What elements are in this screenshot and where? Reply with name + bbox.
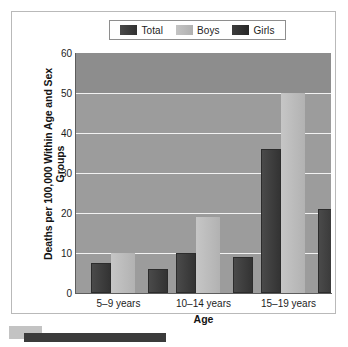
bar-total-1 (176, 253, 196, 293)
legend-label-boys: Boys (197, 25, 220, 36)
x-axis-tick-labels: 5–9 years 10–14 years 15–19 years (76, 298, 331, 312)
x-axis-title: Age (76, 313, 331, 325)
bar-girls-0 (148, 269, 168, 293)
legend-label-girls: Girls (253, 25, 274, 36)
legend-item-boys: Boys (176, 25, 220, 36)
bar-boys-0 (111, 253, 135, 293)
x-axis-line (75, 293, 332, 294)
legend-swatch-girls (232, 25, 249, 35)
y-tick-label-0: 0 (50, 288, 72, 299)
x-tick-label-0: 5–9 years (76, 298, 161, 312)
chart-bars-layer (76, 53, 331, 293)
bar-girls-1 (233, 257, 253, 293)
chart-figure-frame: Total Boys Girls 0102030405060 Deaths pe… (11, 11, 336, 314)
y-axis-line (75, 53, 76, 294)
chart-plot-area (76, 53, 331, 293)
legend-swatch-boys (176, 25, 193, 35)
x-tick-label-1: 10–14 years (161, 298, 246, 312)
bar-girls-2 (318, 209, 331, 293)
bar-total-2 (261, 149, 281, 293)
chart-legend: Total Boys Girls (109, 20, 286, 40)
x-tick-label-2: 15–19 years (246, 298, 331, 312)
bar-boys-1 (196, 217, 220, 293)
legend-swatch-total (120, 25, 137, 35)
y-axis-title: Deaths per 100,000 Within Age and Sex Gr… (42, 50, 66, 278)
legend-label-total: Total (141, 25, 163, 36)
bar-total-0 (91, 263, 111, 293)
bar-boys-2 (281, 93, 305, 293)
legend-item-total: Total (120, 25, 163, 36)
footer-decoration-bar (24, 333, 166, 342)
legend-item-girls: Girls (232, 25, 274, 36)
